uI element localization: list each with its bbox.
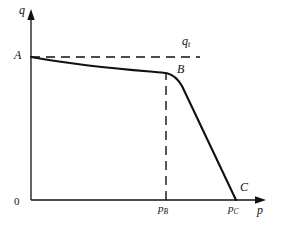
x-axis-label: p (257, 204, 263, 216)
point-c-label: C (240, 181, 248, 193)
p-c-tick-label: pC (228, 203, 238, 215)
y-axis (27, 9, 34, 200)
characteristic-curve (31, 57, 236, 200)
y-axis-label: q (19, 4, 25, 16)
p-b-tick-label: pB (158, 203, 168, 215)
p-c-subscript: C (234, 207, 239, 216)
pump-characteristic-figure: q p 0 A B C qt pB pC (0, 0, 284, 228)
point-a-label: A (14, 49, 21, 61)
p-b-subscript: B (164, 207, 169, 216)
y-axis-arrowhead (27, 9, 34, 20)
theoretical-head-label: qt (182, 35, 190, 49)
origin-label: 0 (14, 196, 20, 207)
point-b-label: B (177, 63, 184, 75)
theoretical-head-subscript: t (188, 40, 190, 49)
